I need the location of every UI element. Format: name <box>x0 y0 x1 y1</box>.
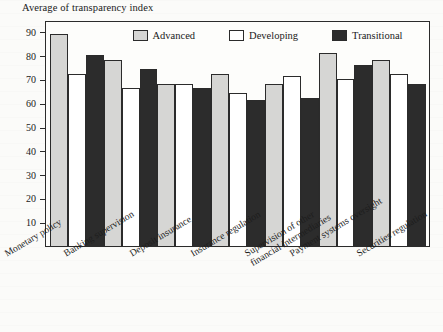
y-axis-tick-label: 90 <box>26 27 40 37</box>
y-axis-tick-label: 80 <box>26 51 40 61</box>
bar-group <box>50 22 104 247</box>
bar-transitional[interactable] <box>193 88 211 247</box>
bar-advanced[interactable] <box>211 74 229 247</box>
legend-swatch-icon <box>229 30 244 41</box>
y-axis-tick-label: 10 <box>26 218 40 228</box>
y-axis-tick-label: 70 <box>26 75 40 85</box>
bar-developing[interactable] <box>68 74 86 247</box>
plot-area <box>46 22 429 247</box>
y-axis-tick-mark <box>40 199 45 200</box>
legend-item-developing[interactable]: Developing <box>229 30 298 41</box>
y-axis-tick-label: 30 <box>26 170 40 180</box>
y-axis-tick-mark <box>40 56 45 57</box>
bar-groups <box>46 22 429 247</box>
y-axis-tick-label: 50 <box>26 123 40 133</box>
legend-item-transitional[interactable]: Transitional <box>332 30 402 41</box>
y-axis-tick-label: 40 <box>26 146 40 156</box>
y-axis-tick-mark <box>40 80 45 81</box>
bar-advanced[interactable] <box>265 84 283 247</box>
legend-label: Developing <box>249 30 298 41</box>
legend-swatch-icon <box>133 30 148 41</box>
legend-swatch-icon <box>332 30 347 41</box>
y-axis-tick-label: 60 <box>26 99 40 109</box>
y-axis-tick-mark <box>40 151 45 152</box>
bar-transitional[interactable] <box>86 55 104 247</box>
y-axis-tick-label: 20 <box>26 194 40 204</box>
x-axis-labels: Monetary policyBanking supervisionDeposi… <box>0 247 443 332</box>
legend-label: Transitional <box>352 30 402 41</box>
bar-advanced[interactable] <box>372 60 390 247</box>
legend-item-advanced[interactable]: Advanced <box>133 30 196 41</box>
y-axis-tick-mark <box>40 128 45 129</box>
y-axis-tick-mark <box>40 175 45 176</box>
legend-label: Advanced <box>153 30 196 41</box>
chart-title: Average of transparency index <box>22 2 153 13</box>
bar-transitional[interactable] <box>140 69 158 247</box>
y-axis-tick-mark <box>40 104 45 105</box>
transparency-index-bar-chart: Average of transparency index 1020304050… <box>0 0 443 332</box>
y-axis: 102030405060708090 <box>0 21 45 247</box>
bar-group <box>157 22 211 247</box>
bar-advanced[interactable] <box>50 34 68 247</box>
chart-legend: AdvancedDevelopingTransitional <box>45 26 430 44</box>
